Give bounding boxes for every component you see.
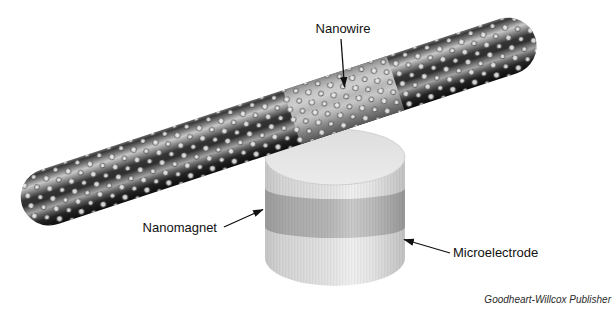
nanowire-label: Nanowire <box>316 21 371 36</box>
nanomagnet-arrow <box>224 210 263 228</box>
figure-stage: Nanowire Nanomagnet Microelectrode Goodh… <box>0 0 616 311</box>
publisher-credit: Goodheart-Willcox Publisher <box>484 294 611 305</box>
nanowire-diagram: Nanowire Nanomagnet Microelectrode Goodh… <box>0 0 616 311</box>
microelectrode-label: Microelectrode <box>453 245 538 260</box>
nanomagnet-label: Nanomagnet <box>143 220 218 235</box>
microelectrode-arrow <box>404 240 450 254</box>
microelectrode-cylinder <box>265 129 405 286</box>
